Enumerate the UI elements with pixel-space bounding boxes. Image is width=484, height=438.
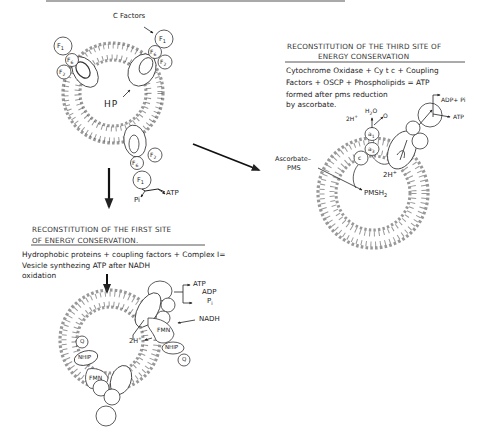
two-h-top-label: 2H+ xyxy=(346,115,358,122)
fmn-upper-label: FMN xyxy=(157,327,170,333)
first-adp-label: ADP xyxy=(202,289,216,296)
f6-bottom-label: F6 xyxy=(132,160,138,169)
third-atp-label: ATP xyxy=(453,114,464,120)
first-site-title-1: RECONSTITUTION OF THE FIRST SITE xyxy=(32,226,171,233)
f1-right-label: F1 xyxy=(159,36,166,44)
q-left-label: Q xyxy=(80,339,84,345)
c-label: c xyxy=(358,155,361,161)
third-site-desc-1: Cytochrome Oxidase + Cy t c + Coupling xyxy=(286,67,439,74)
pi-label: Pi xyxy=(134,197,140,204)
adp-pi-label: ADP+ Pi xyxy=(441,97,465,103)
first-site-desc-2: Vesicle synthezing ATP after NADH xyxy=(22,262,150,269)
ascorbate-label: Ascorbate– xyxy=(275,156,311,163)
third-site-desc-3: formed after pms reduction xyxy=(286,91,388,98)
first-atp-label: ATP xyxy=(193,281,206,288)
third-site-desc-2: Factors + OSCP + Phospholipids = ATP xyxy=(286,79,430,86)
two-h-inner-label: 2H+ xyxy=(383,170,397,179)
q-right-label: Q xyxy=(182,357,186,363)
third-site-title-1: RECONSTITUTION OF THE THIRD SITE OF xyxy=(287,43,441,50)
third-site-desc-4: by ascorbate. xyxy=(286,101,336,108)
f6-right-label: F6 xyxy=(150,49,156,58)
first-site-desc-3: oxidation xyxy=(22,272,56,279)
f2-right-label: F2 xyxy=(160,59,166,68)
o-label: O xyxy=(383,113,388,119)
f2-bottom-label: F2 xyxy=(150,152,156,161)
nhip-left-label: NHIP xyxy=(78,355,91,361)
f6-left-label: F6 xyxy=(67,57,73,66)
first-pi-label: Pi xyxy=(207,298,213,306)
h2o-label: H2O xyxy=(365,108,377,117)
two-h-first-label: 2H+ xyxy=(129,337,142,345)
atp-label: ATP xyxy=(166,190,179,197)
f1-bottom-label: F1 xyxy=(137,177,144,185)
f2-left-label: F2 xyxy=(59,69,65,78)
c-factors-label: C Factors xyxy=(113,13,145,20)
nadh-label: NADH xyxy=(199,316,220,323)
nhip-right-label: NHIP xyxy=(165,345,178,351)
pms-label: PMS xyxy=(287,165,301,172)
hp-label: HP xyxy=(104,100,118,109)
f1-left-label: F1 xyxy=(57,43,64,51)
pmsh2-label: PMSH2 xyxy=(364,190,387,198)
fmn-lower-label: FMN xyxy=(89,375,102,381)
diagonal-arrow xyxy=(193,144,259,170)
a3-label: a3 xyxy=(368,146,375,155)
a1-label: a1 xyxy=(368,131,375,140)
third-site-title-2: ENERGY CONSERVATION xyxy=(318,53,409,60)
first-site-desc-1: Hydrophobic proteins + coupling factors … xyxy=(22,251,225,258)
first-site-title-2: OF ENERGY CONSERVATION. xyxy=(32,237,138,244)
